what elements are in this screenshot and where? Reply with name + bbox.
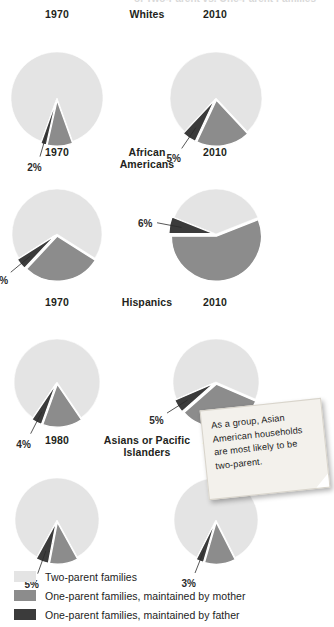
legend: Two-parent familiesOne-parent families, …: [14, 568, 245, 625]
callout-note-text: As a group, Asian American households ar…: [211, 409, 319, 474]
year-label-left: 1980: [22, 434, 92, 446]
legend-item-father: One-parent families, maintained by fathe…: [14, 606, 245, 623]
legend-item-two_parent: Two-parent families: [14, 568, 245, 585]
year-label-right: 2010: [180, 8, 250, 20]
year-label-right: 2010: [180, 146, 250, 158]
pie-group-title: Hispanics: [103, 296, 191, 308]
pie-pair: 68%28%4%38%56%6%: [0, 176, 334, 313]
year-label-right: 2010: [180, 296, 250, 308]
year-label-left: 1970: [22, 146, 92, 158]
callout-note: As a group, Asian American households ar…: [200, 398, 331, 500]
cut-off-header-text: of Two-Parent vs. One-Parent Families: [0, 0, 334, 4]
pie-group-title: AfricanAmericans: [103, 146, 191, 170]
pie-african-americans-2010: [159, 177, 273, 291]
legend-label-two_parent: Two-parent families: [45, 571, 137, 583]
pie-asians-or-pacific-islanders-1980: [3, 466, 111, 574]
pie-group-african-americans: 1970AfricanAmericans201068%28%4%38%56%6%: [0, 146, 334, 313]
callout-fold-corner: [315, 474, 329, 488]
pie-group-header: 1970AfricanAmericans2010: [0, 146, 334, 176]
year-label-left: 1970: [22, 8, 92, 20]
legend-label-mother: One-parent families, maintained by mothe…: [45, 590, 245, 602]
pie-group-header: 1970Hispanics2010: [0, 296, 334, 326]
legend-item-mother: One-parent families, maintained by mothe…: [14, 587, 245, 604]
legend-swatch-mother: [14, 590, 36, 601]
pie-hispanics-1970: [2, 327, 112, 437]
pie-chart-figure: of Two-Parent vs. One-Parent Families 19…: [0, 0, 334, 627]
legend-swatch-two_parent: [14, 571, 36, 582]
pie-group-title: Asians or PacificIslanders: [103, 434, 191, 458]
legend-label-father: One-parent families, maintained by fathe…: [45, 609, 240, 621]
slice-value-father: 6%: [138, 218, 152, 229]
pie-whites-2010: [158, 40, 274, 156]
legend-swatch-father: [14, 609, 36, 620]
pie-whites-1970: [0, 40, 115, 156]
cut-off-header: of Two-Parent vs. One-Parent Families: [0, 0, 334, 5]
pie-group-header: 1970Whites2010: [0, 8, 334, 38]
pie-african-americans-1970: [0, 177, 114, 291]
year-label-left: 1970: [22, 296, 92, 308]
pie-group-title: Whites: [103, 8, 191, 20]
